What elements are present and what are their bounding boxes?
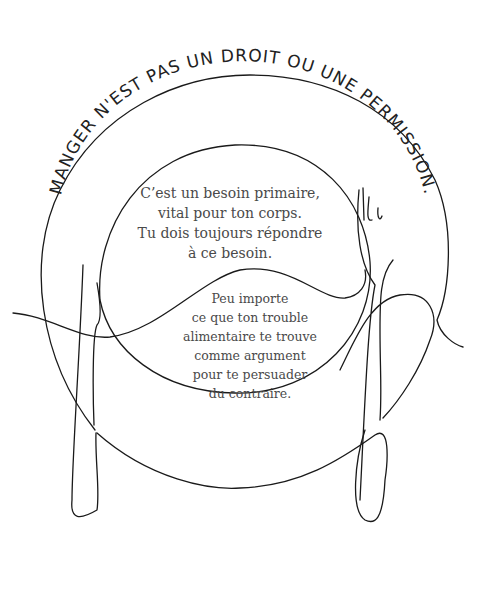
secondary-message-line: alimentaire te trouve xyxy=(170,327,330,346)
knife-outline xyxy=(72,265,100,517)
primary-message-line: C’est un besoin primaire, xyxy=(120,183,340,203)
secondary-message-line: du contraire. xyxy=(170,384,330,403)
primary-message-line: vital pour ton corps. xyxy=(120,203,340,223)
fork-tines-icon xyxy=(363,188,382,220)
secondary-message-line: Peu importe xyxy=(170,289,330,308)
arc-title: MANGER N'EST PAS UN DROIT OU UNE PERMISS… xyxy=(45,45,440,196)
secondary-message: Peu importe ce que ton trouble alimentai… xyxy=(170,289,330,403)
secondary-message-line: comme argument xyxy=(170,346,330,365)
plate-bottom-curve xyxy=(97,430,387,522)
secondary-message-line: ce que ton trouble xyxy=(170,308,330,327)
primary-message-line: à ce besoin. xyxy=(120,243,340,263)
secondary-message-line: pour te persuader xyxy=(170,365,330,384)
primary-message-line: Tu dois toujours répondre xyxy=(120,223,340,243)
primary-message: C’est un besoin primaire, vital pour ton… xyxy=(120,183,340,263)
